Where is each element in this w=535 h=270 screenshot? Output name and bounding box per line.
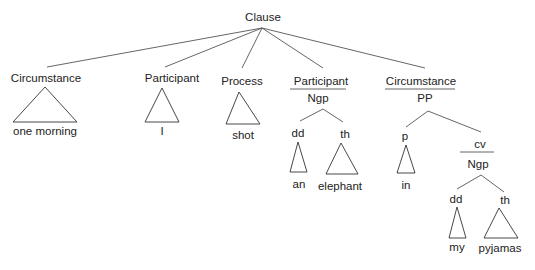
circumstance-1-text: one morning bbox=[13, 125, 77, 137]
triangle-icon bbox=[449, 207, 466, 238]
cv-class: Ngp bbox=[467, 158, 488, 170]
node-clause: Clause bbox=[245, 11, 281, 23]
circumstance-2-label: Circumstance bbox=[386, 75, 456, 87]
triangle-icon bbox=[326, 143, 358, 174]
node-circumstance-1: Circumstance one morning bbox=[11, 72, 81, 137]
node-circumstance-2: Circumstance PP p in cv Ngp dd th my pyj… bbox=[385, 75, 522, 254]
triangle-icon bbox=[145, 88, 179, 122]
process-label: Process bbox=[221, 75, 263, 87]
process-text: shot bbox=[232, 129, 255, 141]
triangle-icon bbox=[226, 92, 260, 124]
participant-1-label: Participant bbox=[145, 72, 200, 84]
triangle-icon bbox=[290, 142, 307, 172]
participant-2-class: Ngp bbox=[307, 92, 328, 104]
dd-label: dd bbox=[450, 193, 463, 205]
syntax-tree-diagram: Clause Circumstance one morning Particip… bbox=[0, 0, 535, 270]
th-text: elephant bbox=[318, 180, 363, 192]
triangle-icon bbox=[397, 145, 415, 173]
node-participant-2: Participant Ngp dd th an elephant bbox=[290, 75, 363, 192]
node-participant-1: Participant I bbox=[145, 72, 200, 137]
circumstance-1-label: Circumstance bbox=[11, 72, 81, 84]
circumstance-2-class: PP bbox=[417, 92, 433, 104]
dd-text: an bbox=[293, 178, 306, 190]
triangle-icon bbox=[484, 208, 518, 238]
th-text: pyjamas bbox=[479, 242, 522, 254]
p-label: p bbox=[402, 130, 408, 142]
th-label: th bbox=[340, 128, 350, 140]
dd-label: dd bbox=[292, 127, 305, 139]
cv-label: cv bbox=[474, 138, 486, 150]
node-cv: cv Ngp dd th my pyjamas bbox=[449, 138, 522, 254]
p-text: in bbox=[402, 179, 411, 191]
root-branches bbox=[47, 28, 425, 68]
triangle-icon bbox=[13, 87, 77, 122]
node-process: Process shot bbox=[221, 75, 263, 141]
th-label: th bbox=[500, 194, 510, 206]
participant-2-label: Participant bbox=[294, 75, 349, 87]
dd-text: my bbox=[449, 241, 465, 253]
participant-1-text: I bbox=[160, 125, 163, 137]
